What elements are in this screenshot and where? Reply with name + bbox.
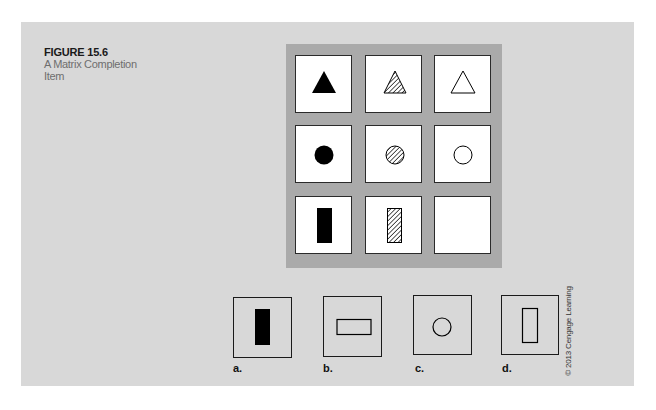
matrix-cell-r3c3-empty [434,196,491,254]
hatched-circle-icon [366,126,423,184]
outline-triangle-icon [435,56,492,114]
figure-caption: FIGURE 15.6 A Matrix Completion Item [44,46,154,82]
solid-rectangle-icon [234,298,293,359]
figure-title: A Matrix Completion Item [44,58,154,82]
solid-circle-icon [296,126,353,184]
option-b-label: b. [323,362,333,374]
solid-triangle-icon [296,56,353,114]
outline-vertical-rectangle-icon [502,296,560,356]
matrix-cell-r3c1 [295,196,352,254]
figure-number: FIGURE 15.6 [44,46,154,58]
option-c-label: c. [415,362,424,374]
matrix-cell-r1c2 [365,55,422,113]
option-d-box[interactable] [501,295,559,355]
matrix-cell-r1c3 [434,55,491,113]
outline-horizontal-rectangle-icon [324,297,383,358]
option-c-box[interactable] [413,295,472,355]
copyright-notice: © 2013 Cengage Learning [564,286,573,375]
matrix-cell-r1c1 [295,55,352,113]
option-d-label: d. [502,362,512,374]
matrix-cell-r3c2 [365,196,422,254]
matrix-cell-r2c3 [434,125,491,183]
option-a-box[interactable] [233,297,292,358]
solid-rectangle-icon [296,197,353,255]
matrix-cell-r2c2 [365,125,422,183]
outline-circle-icon [414,296,473,356]
matrix-grid [286,44,502,268]
option-a-label: a. [233,362,242,374]
hatched-triangle-icon [366,56,423,114]
option-b-box[interactable] [323,296,382,357]
matrix-cell-r2c1 [295,125,352,183]
hatched-rectangle-icon [366,197,423,255]
outline-circle-icon [435,126,492,184]
